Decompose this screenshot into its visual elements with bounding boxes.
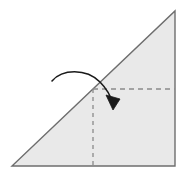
diagram-canvas xyxy=(0,0,185,178)
folding-figure-svg xyxy=(0,0,185,178)
